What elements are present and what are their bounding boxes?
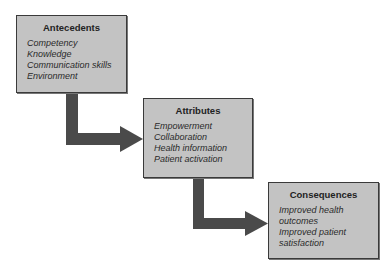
list-item: Patient activation: [154, 154, 252, 165]
antecedents-title: Antecedents: [17, 22, 126, 33]
list-item: Communication skills: [27, 60, 126, 71]
list-item: Competency: [27, 38, 126, 49]
list-item: Collaboration: [154, 132, 252, 143]
consequences-title: Consequences: [269, 189, 378, 200]
list-item: Environment: [27, 71, 126, 82]
attributes-title: Attributes: [144, 105, 252, 116]
list-item: Improved health: [279, 205, 378, 216]
arrow-attributes-to-consequences: [193, 176, 268, 236]
list-item: Knowledge: [27, 49, 126, 60]
antecedents-box: Antecedents Competency Knowledge Communi…: [16, 15, 127, 93]
consequences-box: Consequences Improved health outcomes Im…: [268, 182, 379, 259]
list-item: Empowerment: [154, 121, 252, 132]
list-item: satisfaction: [279, 238, 378, 249]
arrow-antecedents-to-attributes: [66, 91, 143, 152]
list-item: outcomes: [279, 216, 378, 227]
consequences-list: Improved health outcomes Improved patien…: [279, 205, 378, 249]
attributes-box: Attributes Empowerment Collaboration Hea…: [143, 98, 253, 178]
list-item: Improved patient: [279, 227, 378, 238]
attributes-list: Empowerment Collaboration Health informa…: [154, 121, 252, 165]
list-item: Health information: [154, 143, 252, 154]
antecedents-list: Competency Knowledge Communication skill…: [27, 38, 126, 82]
